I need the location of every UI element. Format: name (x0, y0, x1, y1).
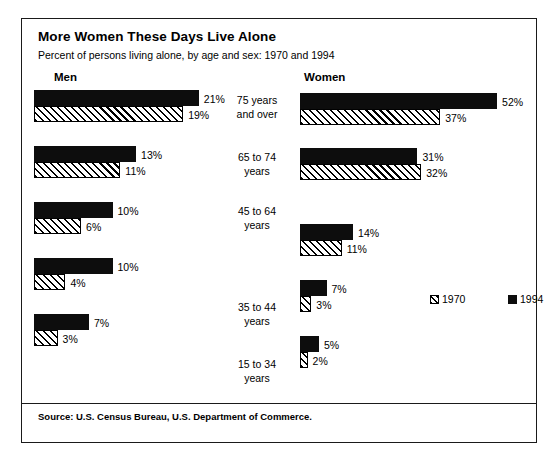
value-label-women-1994-3: 7% (332, 281, 347, 297)
bar-women-1994-2 (300, 224, 353, 240)
legend-label-1994: 1994 (520, 293, 543, 305)
legend-swatch-1970-icon (430, 295, 439, 304)
chart-frame: More Women These Days Live Alone Percent… (21, 18, 537, 443)
value-label-men-1970-4: 3% (63, 331, 78, 347)
age-group-label-0: 75 yearsand over (222, 93, 292, 121)
age-group-label-line1: 35 to 44 (222, 300, 292, 314)
value-label-men-1994-2: 10% (118, 203, 139, 219)
bar-men-1994-0 (34, 90, 199, 106)
age-group-label-line1: 75 years (222, 93, 292, 107)
bar-men-1970-4 (34, 330, 58, 346)
age-group-label-3: 35 to 44years (222, 300, 292, 328)
bar-women-1970-1 (300, 164, 421, 180)
bar-men-1970-0 (34, 106, 183, 122)
bar-men-1994-3 (34, 258, 113, 274)
age-group-label-line1: 15 to 34 (222, 357, 292, 371)
age-group-label-4: 15 to 34years (222, 357, 292, 385)
bar-men-1994-4 (34, 314, 89, 330)
legend-item-1994: 1994 (508, 293, 543, 305)
bar-women-1970-2 (300, 240, 342, 256)
value-label-men-1994-3: 10% (118, 259, 139, 275)
age-group-label-line2: years (222, 371, 292, 385)
bar-men-1994-1 (34, 146, 136, 162)
source-note: Source: U.S. Census Bureau, U.S. Departm… (38, 411, 312, 422)
value-label-men-1994-1: 13% (141, 147, 162, 163)
bar-women-1970-4 (300, 352, 308, 368)
bar-women-1994-1 (300, 148, 417, 164)
bar-women-1970-0 (300, 109, 440, 125)
footer-divider (22, 403, 536, 404)
age-group-label-2: 45 to 64years (222, 204, 292, 232)
value-label-men-1994-4: 7% (94, 315, 109, 331)
legend-swatch-1994-icon (508, 295, 517, 304)
value-label-men-1970-3: 4% (70, 275, 85, 291)
value-label-women-1994-2: 14% (358, 225, 379, 241)
value-label-men-1970-2: 6% (86, 219, 101, 235)
chart-plot-area: 21%19%13%11%10%6%10%4%7%3%52%37%31%32%14… (22, 19, 536, 442)
value-label-women-1994-0: 52% (502, 94, 523, 110)
bar-women-1994-4 (300, 336, 319, 352)
bar-men-1994-2 (34, 202, 113, 218)
value-label-women-1970-4: 2% (313, 353, 328, 369)
bar-men-1970-3 (34, 274, 65, 290)
legend-item-1970: 1970 (430, 293, 465, 305)
age-group-label-line2: years (222, 218, 292, 232)
age-group-label-line1: 45 to 64 (222, 204, 292, 218)
value-label-women-1970-1: 32% (426, 165, 447, 181)
value-label-women-1994-1: 31% (422, 149, 443, 165)
value-label-women-1970-3: 3% (316, 297, 331, 313)
bar-men-1970-1 (34, 162, 120, 178)
age-group-label-line2: years (222, 314, 292, 328)
value-label-women-1970-0: 37% (445, 110, 466, 126)
age-group-label-line2: and over (222, 107, 292, 121)
legend-label-1970: 1970 (442, 293, 465, 305)
value-label-women-1994-4: 5% (324, 337, 339, 353)
bar-men-1970-2 (34, 218, 81, 234)
value-label-women-1970-2: 11% (347, 241, 367, 257)
value-label-men-1970-0: 19% (188, 107, 209, 123)
bar-women-1994-0 (300, 93, 497, 109)
age-group-label-line1: 65 to 74 (222, 150, 292, 164)
age-group-label-1: 65 to 74years (222, 150, 292, 178)
age-group-label-line2: years (222, 164, 292, 178)
bar-women-1994-3 (300, 280, 327, 296)
bar-women-1970-3 (300, 296, 311, 312)
value-label-men-1970-1: 11% (125, 163, 145, 179)
